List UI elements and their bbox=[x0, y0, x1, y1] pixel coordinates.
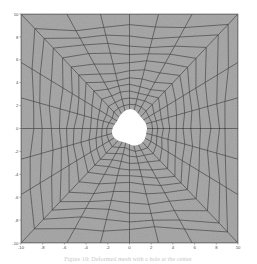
figure-caption: Figure 10: Deformed mesh with a hole at … bbox=[64, 255, 192, 262]
y-tick-label: -2 bbox=[15, 149, 19, 154]
x-tick-label: -8 bbox=[41, 245, 45, 250]
y-tick-label: 10 bbox=[14, 12, 19, 17]
mesh-plot: -10-8-6-4-20246810 -10-8-6-4-20246810 Fi… bbox=[0, 0, 257, 264]
x-tick-label: -6 bbox=[63, 245, 67, 250]
y-tick-label: -8 bbox=[15, 218, 19, 223]
x-tick-label: -10 bbox=[18, 245, 25, 250]
y-tick-label: -4 bbox=[15, 172, 19, 177]
x-tick-label: -2 bbox=[106, 245, 110, 250]
figure-container: -10-8-6-4-20246810 -10-8-6-4-20246810 Fi… bbox=[0, 0, 257, 264]
x-tick-label: -4 bbox=[84, 245, 88, 250]
y-tick-label: -10 bbox=[12, 241, 19, 246]
plot-area bbox=[21, 14, 238, 243]
y-tick-label: -6 bbox=[15, 195, 19, 200]
x-tick-label: 10 bbox=[236, 245, 241, 250]
